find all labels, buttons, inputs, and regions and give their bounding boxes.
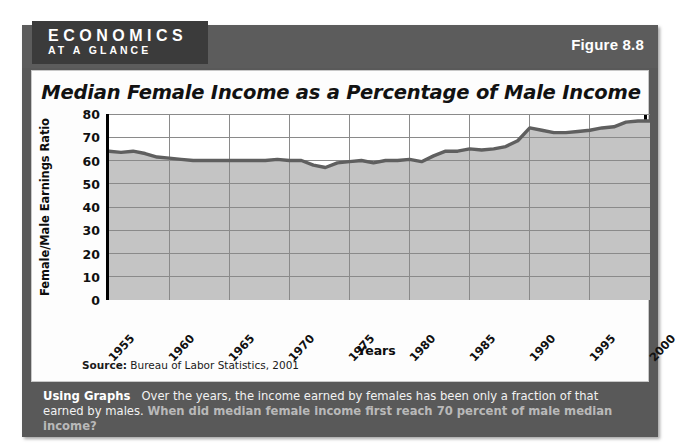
y-tick-40: 40 (70, 200, 100, 215)
figure-number-label: Figure 8.8 (571, 36, 644, 53)
figure-page: ECONOMICS AT A GLANCE Figure 8.8 Median … (0, 0, 677, 447)
x-axis-title: Years (106, 343, 647, 358)
economics-at-a-glance-logo: ECONOMICS AT A GLANCE (32, 21, 208, 64)
y-tick-0: 0 (70, 293, 100, 308)
y-tick-80: 80 (70, 107, 100, 122)
caption-block: Using Graphs Over the years, the income … (31, 387, 649, 431)
y-tick-70: 70 (70, 130, 100, 145)
brand-line-2: AT A GLANCE (48, 44, 208, 57)
y-tick-10: 10 (70, 269, 100, 284)
source-note: Source: Bureau of Labor Statistics, 2001 (82, 359, 299, 371)
brand-line-1: ECONOMICS (48, 27, 208, 44)
header-band: ECONOMICS AT A GLANCE Figure 8.8 (22, 25, 658, 68)
chart-panel: Median Female Income as a Percentage of … (31, 70, 649, 382)
x-tick-1965: 1965 (247, 308, 279, 341)
plot-wrapper: 80706050403020100 1955196019651970197519… (106, 114, 647, 300)
y-axis-title: Female/Male Earnings Ratio (38, 114, 54, 300)
y-tick-30: 30 (70, 223, 100, 238)
x-tick-1960: 1960 (187, 308, 219, 341)
y-tick-20: 20 (70, 246, 100, 261)
caption-heading: Using Graphs (43, 389, 130, 403)
x-tick-2000: 2000 (668, 308, 677, 341)
y-tick-50: 50 (70, 176, 100, 191)
plot-area (106, 114, 647, 300)
x-tick-1970: 1970 (307, 308, 339, 341)
source-text: Bureau of Labor Statistics, 2001 (127, 359, 299, 371)
x-tick-1955: 1955 (127, 308, 159, 341)
y-tick-60: 60 (70, 153, 100, 168)
chart-graphic (109, 114, 650, 300)
x-tick-1975: 1975 (368, 308, 400, 341)
source-prefix: Source: (82, 359, 127, 371)
x-tick-1995: 1995 (608, 308, 640, 341)
x-tick-1985: 1985 (488, 308, 520, 341)
chart-title: Median Female Income as a Percentage of … (32, 81, 650, 104)
figure-frame: ECONOMICS AT A GLANCE Figure 8.8 Median … (22, 25, 658, 437)
x-tick-1980: 1980 (428, 308, 460, 341)
x-tick-1990: 1990 (548, 308, 580, 341)
